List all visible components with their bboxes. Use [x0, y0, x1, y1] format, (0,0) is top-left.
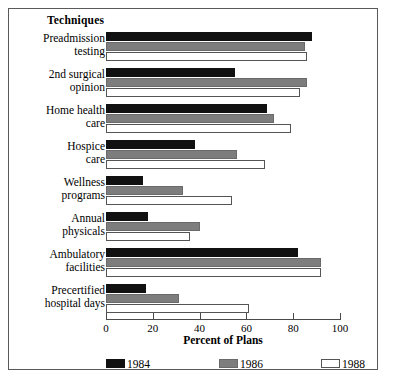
category-label-line2: physicals	[13, 225, 105, 238]
bar-1986	[106, 186, 183, 195]
category-label-line2: care	[13, 153, 105, 166]
x-axis-tick	[246, 313, 247, 320]
bar-group: Preadmissiontesting	[9, 31, 377, 67]
bars-container	[106, 175, 346, 211]
legend-item-1988: 1988	[321, 357, 365, 370]
x-axis-tick-label: 100	[325, 322, 355, 334]
x-axis-tick-label: 0	[91, 322, 121, 334]
category-label-line2: facilities	[13, 261, 105, 274]
legend-label: 1986	[240, 358, 263, 370]
legend-item-1986: 1986	[219, 357, 263, 370]
bar-1988	[106, 196, 232, 205]
bar-1984	[106, 212, 148, 221]
bar-group: Wellnessprograms	[9, 175, 377, 211]
legend-item-1984: 1984	[106, 357, 150, 370]
bar-1984	[106, 68, 235, 77]
category-label-line2: opinion	[13, 81, 105, 94]
bar-group: Ambulatoryfacilities	[9, 247, 377, 283]
bar-1984	[106, 176, 143, 185]
legend: 198419861988	[106, 357, 356, 371]
bar-1988	[106, 124, 291, 133]
bars-container	[106, 31, 346, 67]
x-axis-tick-label: 60	[231, 322, 261, 334]
bars-container	[106, 67, 346, 103]
bar-group: Hospicecare	[9, 139, 377, 175]
bar-1986	[106, 258, 321, 267]
bar-group: 2nd surgicalopinion	[9, 67, 377, 103]
category-label-line1: Wellness	[13, 176, 105, 189]
bar-1984	[106, 284, 146, 293]
legend-label: 1988	[342, 358, 365, 370]
bar-1988	[106, 304, 249, 313]
bar-1986	[106, 294, 179, 303]
page-title: Techniques	[47, 14, 104, 26]
bar-1984	[106, 104, 267, 113]
bar-1986	[106, 114, 274, 123]
category-label-line1: Annual	[13, 212, 105, 225]
category-label-line1: Home health	[13, 104, 105, 117]
category-label-line1: Preadmission	[13, 32, 105, 45]
x-axis-tick	[340, 313, 341, 320]
category-label: Hospicecare	[13, 140, 105, 165]
chart-frame: Techniques Preadmissiontesting2nd surgic…	[8, 8, 378, 370]
bar-1988	[106, 232, 190, 241]
bar-1988	[106, 88, 300, 97]
x-axis-tick	[106, 313, 107, 320]
category-label: Wellnessprograms	[13, 176, 105, 201]
x-axis-tick	[153, 313, 154, 320]
bar-1986	[106, 78, 307, 87]
bar-1988	[106, 268, 321, 277]
category-label: Preadmissiontesting	[13, 32, 105, 57]
category-label-line1: Precertified	[13, 284, 105, 297]
bar-1988	[106, 160, 265, 169]
x-axis-tick-label: 80	[278, 322, 308, 334]
bar-group: Precertifiedhospital days	[9, 283, 377, 319]
category-label: Ambulatoryfacilities	[13, 248, 105, 273]
bar-group: Home healthcare	[9, 103, 377, 139]
bar-1988	[106, 52, 307, 61]
bar-1984	[106, 140, 195, 149]
bars-container	[106, 211, 346, 247]
plot-area: Preadmissiontesting2nd surgicalopinionHo…	[9, 31, 377, 319]
legend-label: 1984	[127, 358, 150, 370]
bar-1986	[106, 222, 200, 231]
x-axis-tick-label: 20	[138, 322, 168, 334]
category-label-line2: hospital days	[13, 297, 105, 310]
x-axis-tick	[293, 313, 294, 320]
x-axis-tick	[200, 313, 201, 320]
category-label-line1: Ambulatory	[13, 248, 105, 261]
category-label: Annualphysicals	[13, 212, 105, 237]
x-axis-line	[106, 319, 340, 320]
bar-1986	[106, 42, 305, 51]
x-axis-tick-label: 40	[185, 322, 215, 334]
category-label-line1: 2nd surgical	[13, 68, 105, 81]
category-label: Precertifiedhospital days	[13, 284, 105, 309]
bar-group: Annualphysicals	[9, 211, 377, 247]
legend-swatch-1986	[219, 359, 238, 368]
category-label: 2nd surgicalopinion	[13, 68, 105, 93]
legend-swatch-1984	[106, 359, 125, 368]
bars-container	[106, 139, 346, 175]
bar-1984	[106, 32, 312, 41]
x-axis-label: Percent of Plans	[106, 334, 340, 346]
category-label: Home healthcare	[13, 104, 105, 129]
category-label-line1: Hospice	[13, 140, 105, 153]
bars-container	[106, 247, 346, 283]
bar-1986	[106, 150, 237, 159]
category-label-line2: care	[13, 117, 105, 130]
legend-swatch-1988	[321, 359, 340, 368]
category-label-line2: testing	[13, 45, 105, 58]
category-label-line2: programs	[13, 189, 105, 202]
bar-1984	[106, 248, 298, 257]
bars-container	[106, 283, 346, 319]
bars-container	[106, 103, 346, 139]
